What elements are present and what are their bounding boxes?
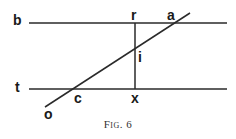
label-a: a (167, 7, 175, 23)
figure-caption: Fig. 6 (0, 118, 236, 130)
label-t: t (15, 79, 20, 95)
figure-canvas: b t r a i c x o Fig. 6 (0, 0, 236, 139)
label-r: r (131, 7, 137, 23)
label-x: x (131, 90, 139, 106)
label-c: c (74, 90, 82, 106)
label-b: b (13, 12, 22, 28)
label-i: i (138, 49, 142, 65)
line-oa (45, 13, 190, 107)
